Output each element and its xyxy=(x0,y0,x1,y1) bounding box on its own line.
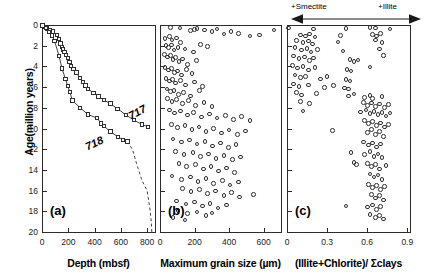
data-point xyxy=(175,125,180,130)
data-point xyxy=(192,200,197,205)
data-point xyxy=(182,152,187,157)
data-point xyxy=(204,213,209,218)
data-point xyxy=(177,161,182,166)
data-point xyxy=(214,156,219,161)
x-tick-label: 0.6 xyxy=(353,237,381,247)
data-point xyxy=(298,99,303,104)
data-point xyxy=(184,164,189,169)
data-point xyxy=(349,69,354,74)
data-point xyxy=(356,58,361,63)
data-point xyxy=(381,198,386,203)
data-point xyxy=(191,150,196,155)
data-point xyxy=(380,40,385,45)
curve-marker xyxy=(115,107,119,111)
data-point xyxy=(297,84,302,89)
data-point xyxy=(362,95,367,100)
panel-tag-c: (c) xyxy=(295,203,311,218)
data-point xyxy=(309,50,314,55)
x-tick-label: 400 xyxy=(81,237,109,247)
curve-marker xyxy=(70,98,74,102)
data-point xyxy=(208,201,213,206)
y-tick xyxy=(288,129,292,130)
panel-c xyxy=(287,25,410,232)
data-point xyxy=(230,157,235,162)
data-point xyxy=(191,50,196,55)
data-point xyxy=(298,33,303,38)
y-tick xyxy=(161,191,165,192)
data-point xyxy=(361,140,366,145)
curve-marker xyxy=(78,106,82,110)
data-point xyxy=(336,40,341,45)
data-point xyxy=(299,48,304,53)
data-point xyxy=(234,142,239,147)
data-point xyxy=(183,83,188,88)
data-point xyxy=(178,78,183,83)
curve-marker xyxy=(102,124,106,128)
data-point xyxy=(352,92,357,97)
data-point xyxy=(205,44,210,49)
data-point xyxy=(344,26,349,31)
data-point xyxy=(331,83,336,88)
data-point xyxy=(368,149,373,154)
data-point xyxy=(191,110,196,115)
data-point xyxy=(224,166,229,171)
data-point xyxy=(224,203,229,208)
data-point xyxy=(200,204,205,209)
curve-marker xyxy=(146,125,150,129)
data-point xyxy=(313,65,318,70)
data-point xyxy=(226,145,231,150)
data-point xyxy=(248,34,253,39)
data-point xyxy=(293,73,298,78)
axis-line-bottom xyxy=(287,232,411,233)
data-point xyxy=(231,117,236,122)
y-tick xyxy=(161,25,165,26)
data-point xyxy=(197,125,202,130)
data-point xyxy=(344,204,349,209)
data-point xyxy=(201,167,206,172)
data-point xyxy=(377,47,382,52)
x-tick xyxy=(195,228,196,233)
data-point xyxy=(239,114,244,119)
data-point xyxy=(218,141,223,146)
data-point xyxy=(220,178,225,183)
y-tick xyxy=(288,46,292,47)
curve-marker xyxy=(140,122,144,126)
data-point xyxy=(272,28,277,33)
y-tick xyxy=(288,191,292,192)
curve-marker xyxy=(102,98,106,102)
data-point xyxy=(378,204,383,209)
x-tick-label: 0 xyxy=(273,237,301,247)
curve-marker xyxy=(50,33,54,37)
y-tick xyxy=(161,232,165,233)
data-point xyxy=(215,27,220,32)
data-point xyxy=(348,79,353,84)
curve-marker xyxy=(91,91,95,95)
data-point xyxy=(378,31,383,36)
data-point xyxy=(197,88,202,93)
curve-marker xyxy=(108,129,112,133)
data-point xyxy=(206,152,211,157)
data-point xyxy=(257,33,262,38)
data-point xyxy=(183,47,188,52)
data-point xyxy=(219,131,224,136)
data-point xyxy=(210,104,215,109)
data-point xyxy=(196,179,201,184)
data-point xyxy=(178,109,183,114)
data-point xyxy=(377,193,382,198)
data-point xyxy=(377,167,382,172)
x-tick-label: 400 xyxy=(215,237,243,247)
data-point xyxy=(210,144,215,149)
data-point xyxy=(384,114,389,119)
data-point xyxy=(302,55,307,60)
data-point xyxy=(190,71,195,76)
data-point xyxy=(202,100,207,105)
x-tick-label: 600 xyxy=(107,237,135,247)
x-tick-label: 0.3 xyxy=(313,237,341,247)
data-point xyxy=(172,111,177,116)
data-point xyxy=(378,142,383,147)
data-point xyxy=(307,32,312,37)
y-tick xyxy=(161,170,165,171)
data-point xyxy=(209,164,214,169)
data-point xyxy=(303,74,308,79)
data-point xyxy=(388,111,393,116)
